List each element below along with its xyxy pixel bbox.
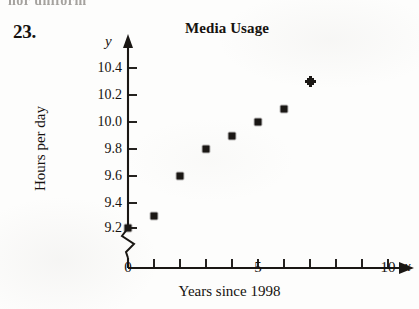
- y-tick-marks: [128, 68, 137, 228]
- data-point: [203, 146, 210, 153]
- scatter-plot: Media Usage Hours per day Years since 19…: [0, 0, 419, 309]
- data-point: [229, 132, 236, 139]
- data-point: [255, 119, 262, 126]
- y-axis-break-zigzag: [122, 228, 134, 258]
- data-point: [305, 76, 316, 87]
- data-point: [151, 212, 158, 219]
- x-tick-label: 5: [254, 259, 262, 276]
- x-tick-label: 0: [124, 259, 132, 276]
- data-point: [125, 225, 132, 232]
- data-point: [177, 173, 184, 180]
- x-tick-label: 10: [381, 259, 396, 276]
- x-axis-arrowhead: [399, 262, 414, 274]
- data-point: [281, 105, 288, 112]
- data-point-star-stroke: [309, 76, 312, 87]
- scanned-page: nor uniform 23. Media Usage Hours per da…: [0, 0, 419, 309]
- axes-and-points: [0, 0, 419, 309]
- y-axis-arrowhead: [123, 34, 133, 48]
